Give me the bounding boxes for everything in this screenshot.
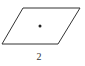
center-dot [39,25,42,28]
figure-label: 2 [0,51,78,62]
